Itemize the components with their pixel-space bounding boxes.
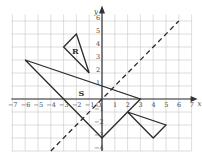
x-tick-label: −7 bbox=[8, 101, 18, 109]
x-tick-label: −5 bbox=[34, 101, 44, 109]
x-tick-label: −6 bbox=[21, 101, 31, 109]
x-axis-label: x bbox=[198, 100, 202, 108]
origin-label: O bbox=[96, 101, 101, 109]
x-tick-label: 2 bbox=[126, 101, 130, 109]
x-tick-label: −4 bbox=[46, 101, 56, 109]
y-tick-label: 3 bbox=[96, 53, 100, 61]
x-tick-label: 7 bbox=[190, 101, 194, 109]
x-tick-label: 1 bbox=[113, 101, 117, 109]
x-tick-label: 4 bbox=[151, 101, 155, 109]
x-tick-label: 3 bbox=[139, 101, 143, 109]
x-tick-label: 5 bbox=[164, 101, 168, 109]
axes bbox=[11, 6, 197, 152]
x-tick-label: −2 bbox=[72, 101, 82, 109]
y-tick-label: −2 bbox=[94, 118, 104, 126]
x-tick-label: 6 bbox=[177, 101, 181, 109]
y-tick-label: 2 bbox=[96, 66, 100, 74]
triangle-label-r: R bbox=[72, 46, 79, 56]
y-tick-label: 5 bbox=[96, 27, 100, 35]
y-tick-label: −4 bbox=[94, 144, 104, 152]
triangle-label-s: S bbox=[79, 88, 85, 98]
y-axis-arrow-icon bbox=[99, 6, 105, 14]
y-tick-label: 4 bbox=[96, 40, 100, 48]
coordinate-diagram: −7−6−5−4−3−2−11234567−4−3−2−1123456 RS x… bbox=[0, 0, 202, 156]
